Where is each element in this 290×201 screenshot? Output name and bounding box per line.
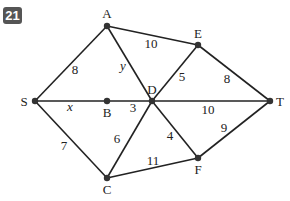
- node-T: [267, 98, 273, 104]
- node-label-F: F: [194, 162, 201, 177]
- node-label-C: C: [103, 182, 112, 197]
- node-S: [32, 98, 38, 104]
- edge-weight-A-E: 10: [145, 36, 158, 51]
- node-B: [104, 98, 110, 104]
- edge-weight-E-D: 5: [179, 69, 186, 84]
- node-C: [104, 175, 110, 181]
- node-D: [149, 98, 155, 104]
- edge-weight-T-F: 9: [221, 120, 228, 135]
- node-label-T: T: [276, 94, 284, 109]
- edge-weight-C-D: 6: [114, 131, 121, 146]
- edge-E-T: [198, 45, 270, 101]
- edge-weight-B-D: 3: [130, 100, 137, 115]
- node-label-E: E: [194, 26, 202, 41]
- node-label-S: S: [20, 94, 27, 109]
- edge-weight-D-T: 10: [202, 102, 215, 117]
- edge-D-F: [152, 101, 198, 158]
- edge-weight-C-F: 11: [147, 153, 160, 168]
- edge-weight-S-B: x: [66, 99, 73, 114]
- network-graph: 810y58x310764911AESBDTCF: [0, 0, 290, 201]
- node-label-B: B: [103, 105, 112, 120]
- node-F: [195, 155, 201, 161]
- edge-weight-S-C: 7: [61, 138, 68, 153]
- node-label-D: D: [147, 82, 156, 97]
- node-E: [195, 42, 201, 48]
- node-label-A: A: [102, 6, 112, 21]
- edge-weight-D-F: 4: [167, 128, 174, 143]
- edge-E-D: [152, 45, 198, 101]
- node-A: [104, 23, 110, 29]
- edge-weight-A-D: y: [118, 58, 126, 73]
- edge-weight-S-A: 8: [72, 62, 79, 77]
- edge-weight-E-T: 8: [224, 71, 231, 86]
